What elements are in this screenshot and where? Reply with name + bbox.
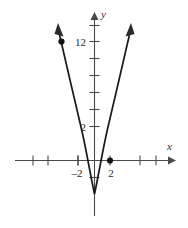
point-x-intercept-2 xyxy=(107,157,113,163)
x-axis-label: x xyxy=(166,140,172,152)
y-tick-label-12: 12 xyxy=(75,36,86,48)
y-axis-label: y xyxy=(100,8,106,20)
x-axis xyxy=(15,156,176,166)
point-left-branch xyxy=(58,38,64,44)
y-axis xyxy=(90,12,100,216)
x-tick-label-2: 2 xyxy=(108,167,114,179)
curve-right-arrow-icon xyxy=(126,23,135,37)
parabola-plot: 12 2 –2 2 y x xyxy=(0,0,188,228)
y-tick-label-2: 2 xyxy=(81,121,87,133)
curve-left-arrow-icon xyxy=(55,23,64,37)
x-tick-label-neg2: –2 xyxy=(71,167,83,179)
y-axis-arrow-icon xyxy=(91,12,99,20)
graph-figure: 12 2 –2 2 y x xyxy=(0,0,188,228)
x-axis-arrow-icon xyxy=(168,157,176,165)
